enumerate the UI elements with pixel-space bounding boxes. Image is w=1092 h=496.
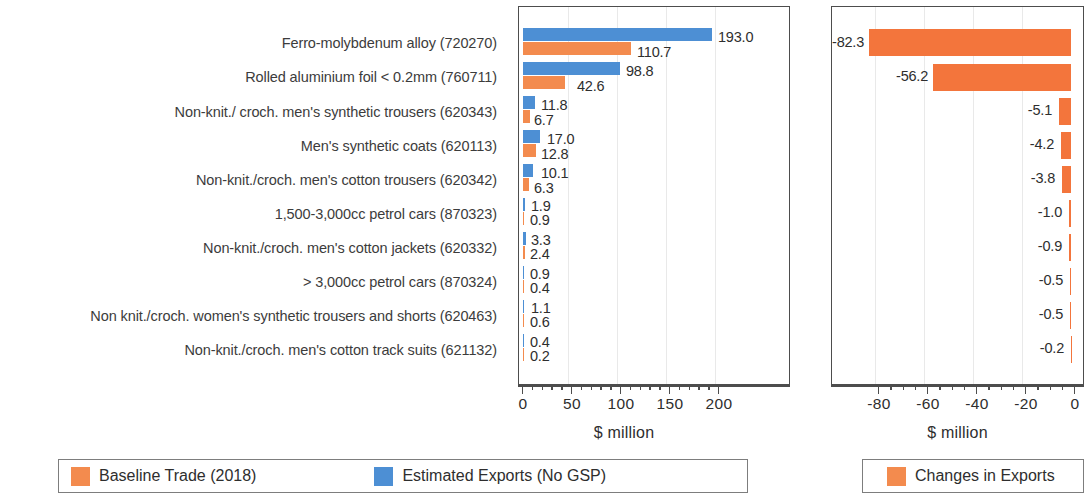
xtick-minor-right-8	[1001, 385, 1002, 390]
x-axis-title-right: $ million	[831, 424, 1084, 442]
legend-label-baseline-trade: Baseline Trade (2018)	[99, 467, 256, 485]
chart-panel-changes-in-exports: -82.3 -56.2 -5.1 -4.2 -3.8 -1.0 -0.9 -0.…	[831, 6, 1084, 385]
value-label-change-0: -82.3	[832, 35, 864, 49]
bar-estimated-7	[523, 266, 524, 279]
category-label-3: Men's synthetic coats (620113)	[301, 139, 497, 154]
category-label-8: Non knit./croch. women's synthetic trous…	[90, 309, 497, 324]
value-label-baseline-7: 0.4	[530, 281, 550, 295]
xtick-right-minus20	[1025, 385, 1026, 394]
xtick-minor-right-11	[1050, 385, 1051, 390]
gridline-left-150	[666, 7, 667, 384]
plot-area-left: 193.0 110.7 98.8 42.6 11.8 6.7 17.0 12.8…	[519, 7, 789, 384]
xtick-minor-left-20	[542, 385, 543, 390]
xtick-left-100	[620, 385, 621, 394]
xtick-minor-right-6	[964, 385, 965, 390]
value-label-change-7: -0.5	[1031, 273, 1063, 287]
value-label-estimated-7: 0.9	[530, 267, 550, 281]
xtick-minor-left-30	[551, 385, 552, 390]
value-label-estimated-4: 10.1	[541, 166, 568, 180]
xtick-left-50	[571, 385, 572, 394]
xtick-label-left-150: 150	[657, 396, 684, 412]
chart-panel-baseline-vs-estimated: 193.0 110.7 98.8 42.6 11.8 6.7 17.0 12.8…	[518, 6, 790, 385]
bar-change-2	[1059, 98, 1072, 125]
xtick-minor-left-70	[591, 385, 592, 390]
value-label-baseline-1: 42.6	[577, 79, 604, 93]
value-label-change-3: -4.2	[1022, 137, 1054, 151]
xtick-minor-left-180	[698, 385, 699, 390]
value-label-estimated-1: 98.8	[626, 64, 653, 78]
category-label-column: Ferro-molybdenum alloy (720270) Rolled a…	[0, 0, 505, 385]
bar-baseline-5	[523, 212, 524, 225]
value-label-estimated-2: 11.8	[541, 98, 567, 112]
value-label-baseline-5: 0.9	[530, 213, 550, 227]
value-label-change-9: -0.2	[1032, 341, 1064, 355]
value-label-change-8: -0.5	[1031, 307, 1063, 321]
bar-change-5	[1069, 200, 1072, 227]
gridline-right-minus60	[924, 7, 925, 384]
xtick-minor-left-120	[640, 385, 641, 390]
x-axis-line-right	[831, 385, 1084, 387]
bar-change-4	[1062, 166, 1071, 193]
legend-label-estimated-exports: Estimated Exports (No GSP)	[402, 467, 606, 485]
legend-item-changes-in-exports[interactable]: Changes in Exports	[887, 467, 1055, 486]
x-axis-right: -80 -60 -40 -20 0	[831, 385, 1084, 419]
x-axis-line-left	[518, 385, 790, 387]
value-label-baseline-2: 6.7	[534, 113, 554, 127]
xtick-label-left-200: 200	[706, 396, 733, 412]
value-label-baseline-4: 6.3	[534, 181, 554, 195]
xtick-minor-left-80	[600, 385, 601, 390]
xtick-minor-left-190	[708, 385, 709, 390]
xtick-right-0	[1074, 385, 1075, 394]
legend-changes: Changes in Exports	[862, 459, 1084, 493]
value-label-estimated-6: 3.3	[531, 233, 551, 247]
bar-estimated-1	[523, 62, 620, 75]
bar-baseline-0	[523, 42, 631, 55]
xtick-minor-left-160	[679, 385, 680, 390]
value-label-baseline-9: 0.2	[530, 349, 550, 363]
bar-estimated-6	[523, 232, 526, 245]
category-label-2: Non-knit./ croch. men's synthetic trouse…	[175, 105, 497, 120]
xtick-minor-left-40	[561, 385, 562, 390]
legend-item-baseline-trade[interactable]: Baseline Trade (2018)	[71, 467, 256, 486]
category-label-9: Non-knit./croch. men's cotton track suit…	[184, 343, 497, 358]
x-axis-left: 0 50 100 150 200	[518, 385, 790, 419]
xtick-minor-left-140	[659, 385, 660, 390]
bar-estimated-9	[523, 334, 524, 347]
value-label-estimated-0: 193.0	[718, 30, 753, 44]
xtick-left-0	[522, 385, 523, 394]
xtick-minor-left-90	[610, 385, 611, 390]
bar-baseline-8	[523, 314, 524, 327]
gridline-right-minus80	[875, 7, 876, 384]
value-label-change-4: -3.8	[1023, 171, 1055, 185]
value-label-change-5: -1.0	[1030, 205, 1062, 219]
legend-label-changes-in-exports: Changes in Exports	[915, 467, 1055, 485]
bar-estimated-2	[523, 96, 535, 109]
bar-change-7	[1070, 268, 1071, 295]
xtick-minor-left-110	[630, 385, 631, 390]
category-label-1: Rolled aluminium foil < 0.2mm (760711)	[245, 70, 497, 85]
bar-baseline-6	[523, 246, 525, 259]
category-label-7: > 3,000cc petrol cars (870324)	[303, 275, 497, 290]
value-label-change-6: -0.9	[1030, 239, 1062, 253]
legend-main: Baseline Trade (2018) Estimated Exports …	[58, 459, 748, 493]
xtick-right-minus80	[878, 385, 879, 394]
bar-change-0	[869, 29, 1071, 56]
xtick-left-150	[669, 385, 670, 394]
gridline-left-200	[715, 7, 716, 384]
xtick-minor-right-3	[915, 385, 916, 390]
bar-estimated-3	[523, 130, 540, 143]
bar-change-1	[933, 64, 1071, 91]
bar-estimated-5	[523, 198, 525, 211]
xtick-minor-left-130	[649, 385, 650, 390]
xtick-label-left-50: 50	[563, 396, 581, 412]
bar-estimated-4	[523, 164, 533, 177]
value-label-baseline-8: 0.6	[530, 315, 550, 329]
xtick-minor-left-10	[532, 385, 533, 390]
bar-baseline-4	[523, 178, 529, 191]
xtick-minor-right-5	[952, 385, 953, 390]
plot-area-right: -82.3 -56.2 -5.1 -4.2 -3.8 -1.0 -0.9 -0.…	[832, 7, 1083, 384]
legend-item-estimated-exports[interactable]: Estimated Exports (No GSP)	[374, 467, 606, 486]
xtick-minor-left-60	[581, 385, 582, 390]
xtick-label-right-minus40: -40	[965, 396, 988, 412]
legend-swatch-blue-icon	[374, 467, 393, 486]
